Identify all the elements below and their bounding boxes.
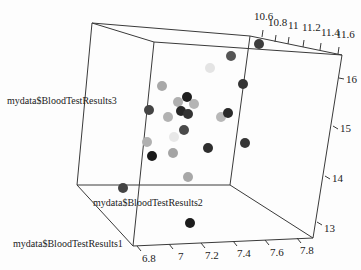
y-tick (338, 47, 339, 54)
box-edge (230, 185, 313, 238)
y-tick (262, 30, 263, 37)
z-tick-label: 15 (340, 122, 352, 134)
box-edge (133, 238, 313, 246)
data-point (147, 151, 157, 161)
data-point (157, 81, 167, 91)
y-tick-label: 11 (288, 19, 299, 31)
z-tick-label: 14 (332, 172, 344, 184)
data-point (179, 125, 189, 135)
y-tick-label: 11.6 (336, 28, 355, 40)
data-point (182, 92, 192, 102)
z-tick (325, 176, 330, 179)
x-tick-label: 6.8 (142, 252, 156, 264)
data-point (185, 218, 195, 228)
z-axis-label: mydata$BloodTestResults3 (7, 95, 117, 106)
z-axis: 16 15 14 13 (317, 73, 358, 234)
box-edge (313, 55, 342, 238)
x-tick-label: 7.4 (237, 247, 251, 259)
plot-box (77, 23, 342, 246)
z-tick-label: 16 (346, 73, 358, 85)
y-tick-label: 11.2 (302, 21, 321, 33)
data-point (238, 79, 248, 89)
scatter3d-plot: 6.8 7 7.2 7.4 7.6 7.8 10.6 10.8 11 11.2 … (0, 0, 361, 270)
z-tick (333, 126, 338, 129)
x-tick (201, 243, 205, 248)
data-point (142, 137, 152, 147)
box-edge (77, 185, 133, 246)
data-point (205, 63, 215, 73)
data-point (173, 97, 183, 107)
y-tick-label: 10.8 (268, 16, 288, 28)
y-tick (320, 43, 321, 50)
x-tick (137, 246, 141, 251)
x-tick (265, 240, 269, 245)
x-tick-label: 7.8 (300, 244, 314, 256)
x-tick-label: 7.2 (205, 249, 219, 261)
data-point (144, 105, 154, 115)
z-tick-label: 13 (324, 222, 336, 234)
data-point (240, 138, 250, 148)
data-point (118, 183, 128, 193)
y-tick (288, 37, 289, 44)
z-tick (317, 222, 322, 225)
data-point (254, 39, 264, 49)
data-point (226, 51, 236, 61)
x-tick-label: 7 (178, 250, 184, 262)
data-point (203, 143, 213, 153)
box-edge (92, 23, 250, 36)
data-point (183, 172, 193, 182)
z-tick (339, 78, 344, 79)
data-point (183, 109, 193, 119)
x-tick-label: 7.6 (270, 246, 284, 258)
y-tick (303, 40, 304, 47)
data-point (168, 148, 178, 158)
data-point (169, 132, 179, 142)
y-axis-label: mydata$BloodTestResults2 (93, 197, 203, 208)
data-point (163, 112, 173, 122)
data-point (223, 108, 233, 118)
x-axis-label: mydata$BloodTestResults1 (13, 238, 123, 249)
